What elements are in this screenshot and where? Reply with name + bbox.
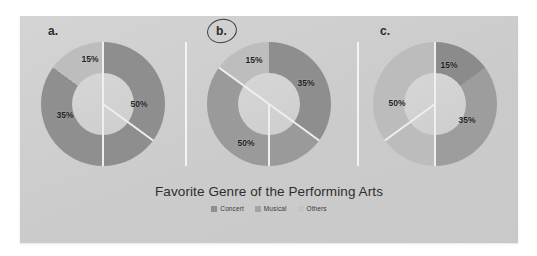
panel-label-c: c.: [380, 25, 390, 37]
legend-item[interactable]: Others: [298, 206, 327, 213]
legend-label: Concert: [220, 206, 243, 213]
panel-divider: [357, 42, 359, 166]
slice-label-others-c: 50%: [388, 99, 405, 108]
chart-legend: ConcertMusicalOthers: [20, 206, 518, 213]
donut-chart-b[interactable]: b. 35% 50% 15%: [186, 16, 352, 181]
panel-divider: [185, 42, 187, 166]
panel-label-b: b.: [216, 25, 227, 37]
slice-separator: [102, 104, 104, 166]
legend-swatch-icon: [255, 206, 261, 212]
donut-b[interactable]: 35% 50% 15%: [207, 42, 331, 166]
legend-swatch-icon: [211, 206, 217, 212]
donut-a[interactable]: 50% 35% 15%: [41, 42, 165, 166]
legend-item[interactable]: Musical: [255, 206, 287, 213]
slice-label-concert-b: 35%: [297, 79, 314, 88]
caption-block: Favorite Genre of the Performing Arts Co…: [20, 184, 518, 212]
legend-label: Musical: [264, 206, 287, 213]
slice-label-concert-a: 50%: [130, 100, 147, 109]
slice-separator: [434, 104, 436, 166]
slice-separator: [268, 104, 270, 166]
legend-swatch-icon: [298, 206, 304, 212]
legend-item[interactable]: Concert: [211, 206, 243, 213]
slice-label-musical-c: 35%: [458, 116, 475, 125]
slice-label-musical-a: 35%: [56, 111, 73, 120]
slice-label-concert-c: 15%: [440, 61, 457, 70]
slide-card: a. 50% 35% 15% b. 35%: [20, 16, 518, 243]
donut-c[interactable]: 15% 35% 50%: [373, 42, 497, 166]
slice-label-others-a: 15%: [81, 55, 98, 64]
slice-separator: [102, 42, 104, 104]
donut-chart-c[interactable]: c. 15% 35% 50%: [352, 16, 518, 181]
legend-label: Others: [307, 206, 327, 213]
chart-title: Favorite Genre of the Performing Arts: [20, 184, 518, 201]
slice-label-musical-b: 50%: [237, 139, 254, 148]
panel-label-a: a.: [48, 25, 58, 37]
slice-label-others-b: 15%: [245, 56, 262, 65]
donut-charts-row: a. 50% 35% 15% b. 35%: [20, 16, 518, 181]
slice-separator: [434, 42, 436, 104]
donut-chart-a[interactable]: a. 50% 35% 15%: [20, 16, 186, 181]
